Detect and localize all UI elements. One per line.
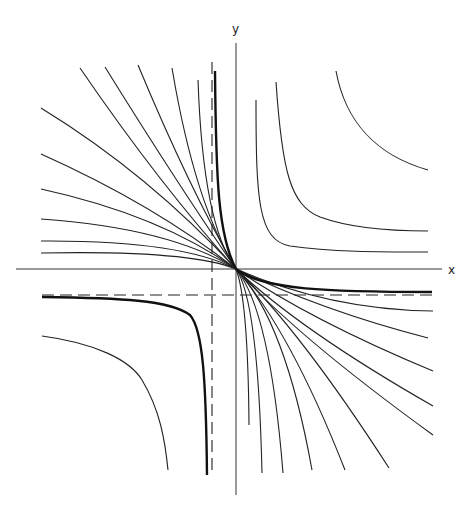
upper-right-hyperbolas [256,71,428,252]
lower-right-curve-fan [236,269,433,473]
x-axis-label: x [448,263,455,277]
upper-left-curve-fan [41,65,236,269]
diagram-canvas [0,0,475,506]
y-axis-label: y [232,22,239,36]
lower-left-branch [42,336,168,470]
curve-family-diagram: y x [0,0,475,506]
